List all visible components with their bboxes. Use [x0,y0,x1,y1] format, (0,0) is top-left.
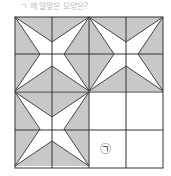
pattern-grid [0,0,171,176]
blank-label: ㉠ [100,140,111,156]
